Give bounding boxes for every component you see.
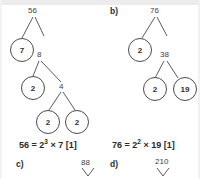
tree-b-circle-19: 19	[174, 78, 197, 101]
node-label: 2	[46, 118, 51, 127]
tree-a-circle-2-mid: 2	[22, 77, 45, 100]
worksheet-page: 7 2 2 2 2 2	[0, 0, 200, 179]
node-label: 7	[20, 46, 25, 55]
factor-tree-graphics: 7 2 2 2 2 2	[0, 0, 200, 179]
equation-a-equals: =	[32, 140, 37, 150]
node-label: 2	[31, 84, 36, 93]
equation-a-exponent: 3	[44, 138, 48, 145]
tree-a-circle-2-right: 2	[66, 111, 89, 134]
node-label: 19	[181, 85, 190, 94]
tree-a-branches	[22, 17, 75, 110]
equation-b-factor: 19	[151, 140, 161, 150]
equation-a-times: ×	[50, 140, 55, 150]
tree-b-node-38-label: 38	[160, 51, 169, 59]
tree-b-branches	[142, 17, 178, 78]
tree-a-circle-7: 7	[11, 39, 34, 62]
equation-a: 56 = 23 × 7 [1]	[19, 141, 77, 150]
equation-b-times: ×	[143, 140, 148, 150]
tree-d-branches	[157, 168, 169, 176]
equation-b: 76 = 22 × 19 [1]	[112, 141, 175, 150]
tree-b-circle-2-top: 2	[129, 39, 152, 62]
tree-b-root-label: 76	[150, 7, 159, 15]
tree-a-node-8-label: 8	[37, 51, 41, 59]
tree-c-branches	[82, 168, 94, 176]
panel-letter-b: b)	[110, 7, 118, 16]
tree-a-node-4-label: 4	[59, 83, 63, 91]
equation-b-exponent: 2	[137, 138, 141, 145]
equation-a-mark: [1]	[66, 140, 77, 150]
node-label: 2	[75, 118, 80, 127]
equation-a-factor: 7	[58, 140, 63, 150]
tree-b-circle-2-left: 2	[144, 78, 167, 101]
equation-b-lhs: 76	[112, 140, 122, 150]
equation-b-equals: =	[125, 140, 130, 150]
tree-d-root-label: 210	[155, 158, 168, 166]
tree-a-root-label: 56	[28, 7, 37, 15]
equation-b-mark: [1]	[164, 140, 175, 150]
node-label: 2	[138, 46, 143, 55]
equation-a-lhs: 56	[19, 140, 29, 150]
node-label: 2	[153, 85, 158, 94]
tree-a-circle-2-left: 2	[37, 111, 60, 134]
panel-letter-c: c)	[16, 160, 24, 169]
tree-c-root-label: 88	[81, 159, 90, 167]
panel-letter-d: d)	[110, 160, 118, 169]
